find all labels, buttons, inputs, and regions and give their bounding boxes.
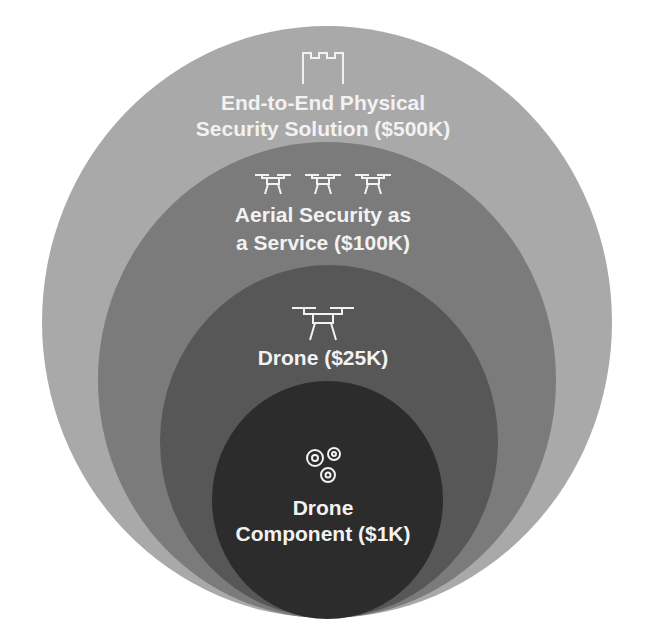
gears-icon — [0, 443, 646, 487]
drone-icon — [0, 304, 646, 342]
castle-icon — [0, 50, 646, 84]
layer-1-title-line2: Security Solution ($500K) — [0, 116, 646, 142]
layer-4-title-line1: Drone — [0, 495, 646, 521]
layer-2-title-line2: a Service ($100K) — [0, 230, 646, 256]
drone-fleet-icon — [0, 172, 646, 196]
layer-2-title-line1: Aerial Security as — [0, 202, 646, 228]
layer-4-title-line2: Component ($1K) — [0, 521, 646, 547]
layer-3-title: Drone ($25K) — [0, 345, 646, 371]
layer-1-title-line1: End-to-End Physical — [0, 90, 646, 116]
